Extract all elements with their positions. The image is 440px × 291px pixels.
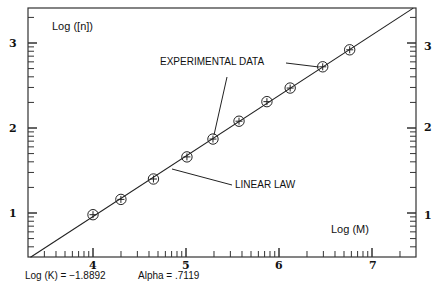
leader-experimental-down (214, 77, 227, 135)
leader-linear-law (172, 169, 232, 185)
x-tick-label-6: 6 (275, 259, 283, 272)
fit-line (31, 8, 414, 257)
y-tick-label-left-3: 3 (9, 37, 17, 50)
linear-law-line (31, 8, 414, 257)
footer-alpha: Alpha = .7119 (138, 270, 199, 281)
x-tick-label-4: 4 (89, 259, 97, 272)
x-tick-label-7: 7 (369, 259, 377, 272)
x-axis-label: Log (M) (331, 223, 369, 235)
y-tick-label-left-1: 1 (9, 207, 17, 220)
y-axis-label: Log ([n]) (52, 20, 93, 32)
annotation-experimental-data: EXPERIMENTAL DATA (160, 56, 264, 67)
chart-plot-area (0, 0, 440, 291)
data-point (344, 45, 354, 55)
y-tick-label-right-1: 1 (424, 209, 432, 222)
data-point (318, 62, 328, 72)
data-point (285, 83, 295, 93)
data-point (208, 134, 218, 144)
y-tick-label-left-2: 2 (9, 122, 17, 135)
x-tick-label-5: 5 (182, 259, 190, 272)
leader-experimental-right (286, 63, 319, 67)
data-point (182, 152, 192, 162)
data-point (234, 116, 244, 126)
y-tick-label-right-2: 2 (424, 121, 432, 134)
annotation-leader-lines (172, 63, 319, 185)
data-point (116, 194, 126, 204)
annotation-linear-law: LINEAR LAW (235, 179, 295, 190)
y-tick-label-right-3: 3 (424, 40, 432, 53)
